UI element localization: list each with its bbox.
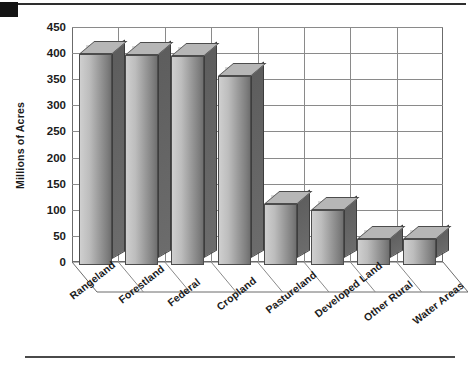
y-axis-tick-label: 400 — [47, 47, 66, 59]
y-axis-tick-label: 350 — [47, 73, 66, 85]
bar-front-face — [264, 204, 297, 265]
bar-rangeland — [79, 54, 112, 266]
bar-front-face — [171, 56, 204, 265]
bar-front-face — [79, 54, 112, 266]
y-axis-tick-label: 100 — [47, 204, 66, 216]
y-axis-tick-label: 150 — [47, 178, 66, 190]
bar-pastureland — [264, 204, 297, 265]
bar-front-face — [125, 55, 158, 265]
y-axis-tick-label: 0 — [60, 256, 66, 268]
bar-side-face — [251, 61, 264, 258]
bottom-horizontal-rule — [25, 356, 455, 358]
bars-container — [72, 27, 468, 297]
bar-water-areas — [403, 239, 436, 265]
bar-front-face — [218, 76, 251, 265]
y-axis-tick-label: 450 — [47, 21, 66, 33]
bar-side-face — [158, 41, 171, 258]
bar-front-face — [357, 239, 390, 265]
bar-cropland — [218, 76, 251, 265]
bar-front-face — [311, 210, 344, 265]
bar-federal — [171, 56, 204, 265]
y-axis-title: Millions of Acres — [14, 80, 30, 210]
y-axis-tick-label: 50 — [53, 230, 66, 242]
bar-front-face — [403, 239, 436, 265]
bar-developed-land — [311, 210, 344, 265]
y-axis-tick-label: 200 — [47, 152, 66, 164]
bar-other-rural — [357, 239, 390, 265]
bar-side-face — [112, 39, 125, 258]
bar-side-face — [204, 42, 217, 258]
y-axis-tick-label: 300 — [47, 99, 66, 111]
y-axis-tick-label: 250 — [47, 125, 66, 137]
bar-forestland — [125, 55, 158, 265]
